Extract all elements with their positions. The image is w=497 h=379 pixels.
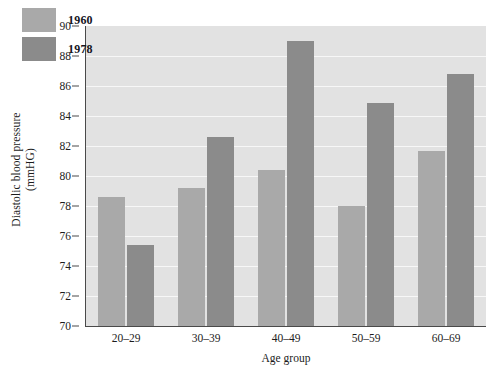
y-tick-label: 82 [60,140,72,152]
y-tick-mark [72,266,79,267]
legend-label: 1960 [68,13,93,28]
bar-1960-40-49 [258,170,285,326]
bar-1960-50-59 [338,206,365,326]
bar-1978-50-59 [367,103,394,327]
y-axis-title-line2: (mmHG) [23,113,37,227]
gridline [86,56,486,57]
bar-chart-figure: Diastolic blood pressure (mmHG) 70727476… [0,0,497,379]
y-tick-label: 86 [60,80,72,92]
bar-1960-60-69 [418,151,445,327]
y-tick-mark [72,86,79,87]
bar-1960-30-39 [178,188,205,326]
bar-1978-40-49 [287,41,314,326]
gridline [86,146,486,147]
y-tick-mark [72,326,79,327]
x-tick-label: 60–69 [432,332,461,344]
bar-1978-60-69 [447,74,474,326]
x-axis-title: Age group [86,352,486,364]
bar-1978-20-29 [127,245,154,326]
chart-legend: 19601978 [22,8,142,66]
x-tick-label: 30–39 [192,332,221,344]
y-tick-label: 70 [60,320,72,332]
y-tick-mark [72,176,79,177]
y-tick-label: 74 [60,260,72,272]
y-tick-label: 72 [60,290,72,302]
x-axis-ticks: 20–2930–3940–4950–5960–69 [86,332,486,350]
y-tick-label: 84 [60,110,72,122]
x-tick-label: 40–49 [272,332,301,344]
bar-1978-30-39 [207,137,234,326]
y-axis-title-line1: Diastolic blood pressure [9,113,21,227]
y-tick-label: 80 [60,170,72,182]
legend-item-1960: 1960 [22,8,142,32]
y-tick-label: 76 [60,230,72,242]
x-axis-line [85,326,486,327]
legend-swatch-1978 [22,37,56,61]
x-tick-label: 20–29 [112,332,141,344]
legend-swatch-1960 [22,8,56,32]
legend-item-1978: 1978 [22,37,142,61]
y-tick-mark [72,296,79,297]
y-tick-mark [72,116,79,117]
gridline [86,116,486,117]
y-tick-label: 78 [60,200,72,212]
y-tick-mark [72,206,79,207]
y-tick-mark [72,146,79,147]
legend-label: 1978 [68,42,93,57]
bar-1960-20-29 [98,197,125,326]
gridline [86,86,486,87]
x-tick-label: 50–59 [352,332,381,344]
plot-area [86,26,486,326]
y-tick-mark [72,236,79,237]
